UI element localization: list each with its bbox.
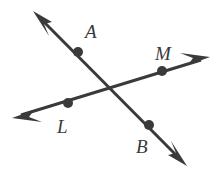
- point-dot-L: [63, 98, 73, 108]
- point-label-B: B: [136, 136, 148, 157]
- line-LM-segment: [21, 60, 201, 115]
- point-label-M: M: [154, 43, 172, 64]
- line-AB-arrowhead-start-icon: [33, 11, 52, 36]
- line-LM: [12, 53, 210, 122]
- point-label-L: L: [56, 116, 68, 137]
- figure-canvas: A M L B: [0, 0, 223, 170]
- point-label-A: A: [83, 21, 97, 42]
- line-AB-arrowhead-end-icon: [168, 141, 187, 166]
- point-dot-A: [73, 47, 83, 57]
- point-dot-M: [157, 66, 167, 76]
- point-dot-B: [144, 120, 154, 130]
- geometry-figure: A M L B: [0, 0, 223, 170]
